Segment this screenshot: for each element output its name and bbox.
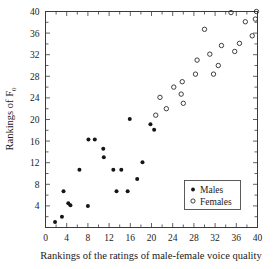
data-point-males-0 (53, 220, 57, 224)
data-point-males-18 (148, 122, 152, 126)
y-tick-label-20: 20 (30, 115, 40, 125)
plot-canvas: 0481216202428323640 481216202428323640 M… (0, 0, 277, 269)
x-tick-label-40: 40 (253, 233, 263, 243)
y-tick-label-36: 36 (30, 29, 40, 39)
data-point-males-9 (101, 147, 105, 151)
x-tick-label-36: 36 (232, 233, 242, 243)
data-point-males-14 (126, 189, 130, 193)
data-point-females-0 (154, 113, 158, 117)
x-tick-label-8: 8 (86, 233, 91, 243)
data-point-males-15 (128, 117, 132, 121)
legend-label-females: Females (200, 197, 232, 207)
x-tick-label-4: 4 (64, 233, 69, 243)
data-point-males-19 (152, 128, 156, 132)
data-point-females-10 (208, 52, 212, 56)
data-point-males-2 (62, 189, 66, 193)
data-point-males-8 (93, 137, 97, 141)
data-point-females-16 (237, 41, 241, 45)
data-point-females-11 (211, 72, 215, 76)
x-tick-label-28: 28 (189, 233, 199, 243)
y-tick-label-28: 28 (30, 72, 40, 82)
data-point-males-17 (140, 160, 144, 164)
legend: Males Females (185, 181, 241, 210)
y-tick-label-12: 12 (30, 158, 40, 168)
x-tick-label-0: 0 (43, 233, 48, 243)
legend-label-males: Males (200, 185, 224, 195)
y-axis-label: Rankings of F0 (4, 87, 18, 151)
data-point-females-18 (250, 34, 254, 38)
data-point-females-19 (253, 17, 257, 21)
data-point-females-12 (216, 63, 220, 67)
y-axis-label-text: Rankings of F0 (4, 87, 18, 151)
x-tick-label-32: 32 (210, 233, 220, 243)
x-axis-label-text: Rankings of the ratings of male-female v… (40, 250, 262, 261)
data-point-females-13 (219, 43, 223, 47)
data-point-females-1 (158, 95, 162, 99)
data-point-males-10 (102, 155, 106, 159)
x-axis-tick-labels: 0481216202428323640 (43, 233, 262, 243)
data-point-females-3 (172, 85, 176, 89)
data-point-females-2 (164, 107, 168, 111)
data-point-males-13 (119, 168, 123, 172)
data-point-females-9 (202, 27, 206, 31)
data-point-males-16 (135, 177, 139, 181)
y-tick-label-8: 8 (35, 180, 40, 190)
x-tick-label-16: 16 (126, 233, 136, 243)
y-axis-label-subscript: 0 (10, 87, 18, 91)
data-point-females-15 (233, 49, 237, 53)
data-point-females-17 (243, 20, 247, 24)
data-point-males-11 (111, 168, 115, 172)
data-point-males-4 (68, 203, 72, 207)
y-tick-label-24: 24 (30, 93, 40, 103)
data-point-females-4 (179, 92, 183, 96)
data-point-females-7 (193, 72, 197, 76)
x-axis-label: Rankings of the ratings of male-female v… (40, 250, 262, 261)
x-tick-label-12: 12 (104, 233, 114, 243)
series-females-points (154, 9, 259, 117)
y-tick-label-32: 32 (30, 50, 40, 60)
y-axis-label-main: Rankings of F (4, 91, 15, 151)
data-point-males-12 (115, 189, 119, 193)
data-point-females-6 (181, 101, 185, 105)
data-point-males-5 (77, 168, 81, 172)
y-axis-tick-labels: 481216202428323640 (30, 7, 40, 211)
x-tick-label-20: 20 (147, 233, 157, 243)
data-point-males-6 (86, 204, 90, 208)
y-tick-label-40: 40 (30, 7, 40, 17)
data-point-females-8 (195, 58, 199, 62)
data-point-males-1 (60, 215, 64, 219)
x-tick-label-24: 24 (168, 233, 178, 243)
data-point-females-5 (180, 80, 184, 84)
legend-marker-males (191, 188, 195, 192)
series-males-points (53, 117, 156, 224)
y-tick-label-16: 16 (30, 137, 40, 147)
y-tick-label-4: 4 (35, 201, 40, 211)
scatter-plot-figure: 0481216202428323640 481216202428323640 M… (0, 0, 277, 269)
data-point-males-7 (86, 137, 90, 141)
